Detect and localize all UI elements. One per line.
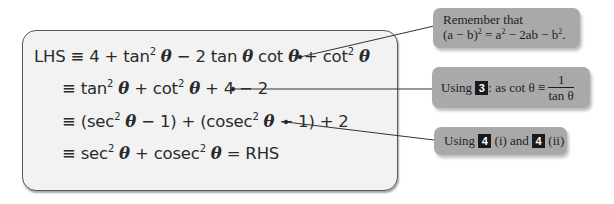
text: .: [562, 27, 565, 42]
callout-cot-identity: Using 3: as cot θ ≡ 1tan θ: [432, 67, 590, 108]
connector-line-1: [300, 26, 434, 57]
fraction-denominator: tan θ: [548, 88, 573, 103]
callout-identity-4: Using 4 (i) and 4 (ii): [434, 127, 567, 155]
text: Using: [444, 133, 478, 149]
text: Using: [441, 80, 475, 96]
callout-binomial-reminder: Remember that (a − b)2 = a2 − 2ab − b2.: [433, 8, 580, 48]
connector-line-3: [286, 122, 434, 140]
callout-line: (a − b)2 = a2 − 2ab − b2.: [443, 27, 580, 42]
connector-dot-1: [298, 55, 302, 59]
text: = a: [482, 27, 502, 42]
fraction-numerator: 1: [548, 72, 573, 88]
identity-badge-3: 3: [475, 81, 488, 95]
connector-dot-3: [284, 120, 288, 124]
text: − 2ab − b: [505, 27, 558, 42]
text: (a − b): [443, 27, 478, 42]
fraction: 1tan θ: [548, 72, 573, 103]
text: (i) and: [491, 133, 532, 149]
text: : as cot θ ≡: [488, 80, 548, 96]
identity-badge-4: 4: [478, 134, 491, 148]
callout-line: Remember that: [443, 12, 580, 27]
connector-dot-2: [231, 87, 235, 91]
text: (ii): [545, 133, 564, 149]
identity-badge-4: 4: [532, 134, 545, 148]
